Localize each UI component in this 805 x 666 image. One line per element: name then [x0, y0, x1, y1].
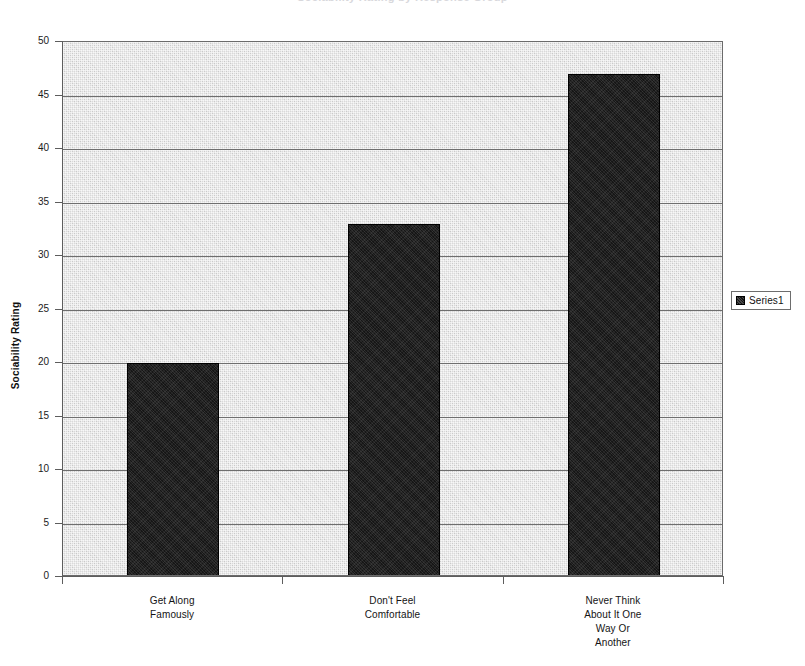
y-tick-25 [55, 309, 63, 310]
y-tick-label-35: 35 [9, 197, 49, 207]
y-tick-label-50: 50 [9, 36, 49, 46]
y-tick-label-30: 30 [9, 250, 49, 260]
legend-swatch-series1 [736, 296, 745, 305]
x-tick-1 [282, 577, 283, 584]
legend: Series1 [731, 291, 791, 310]
y-tick-label-10: 10 [9, 464, 49, 474]
y-tick-label-15: 15 [9, 411, 49, 421]
x-tick-2 [503, 577, 504, 584]
y-tick-40 [55, 148, 63, 149]
x-category-label-2: Never ThinkAbout It OneWay OrAnother [503, 594, 723, 650]
y-tick-30 [55, 255, 63, 256]
x-tick-end [723, 577, 724, 584]
y-tick-label-45: 45 [9, 90, 49, 100]
x-category-label-1: Don't FeelComfortable [282, 594, 502, 622]
y-tick-50 [55, 41, 63, 42]
y-tick-label-40: 40 [9, 143, 49, 153]
x-tick-0 [62, 577, 63, 584]
y-tick-45 [55, 95, 63, 96]
chart-title: Sociability Rating by Response Group [0, 0, 805, 3]
y-tick-15 [55, 416, 63, 417]
legend-label-series1: Series1 [749, 295, 784, 306]
y-tick-label-5: 5 [9, 518, 49, 528]
y-axis-title: Sociability Rating [10, 286, 21, 406]
bar-0 [127, 363, 219, 576]
bar-1 [348, 224, 440, 576]
x-axis-line [62, 576, 724, 577]
y-tick-label-0: 0 [9, 571, 49, 581]
x-category-label-0: Get AlongFamously [62, 594, 282, 622]
y-tick-10 [55, 469, 63, 470]
bar-chart: Sociability Rating by Response Group 504… [0, 0, 805, 666]
y-tick-20 [55, 362, 63, 363]
bar-2 [568, 74, 660, 576]
y-tick-35 [55, 202, 63, 203]
y-tick-5 [55, 523, 63, 524]
plot-area [62, 41, 723, 576]
